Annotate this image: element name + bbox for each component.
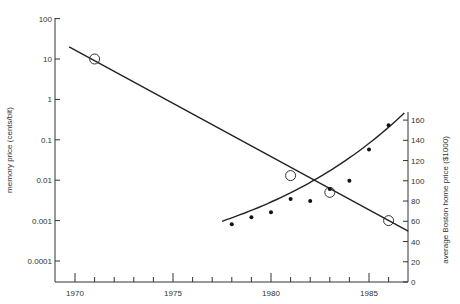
home-price-point (269, 210, 273, 214)
y-tick-label: 10 (43, 55, 52, 64)
y-tick-label: 0.001 (32, 217, 53, 226)
home-price-fit-curve (222, 113, 404, 221)
y-axis-title: memory price (cents/bit) (5, 107, 14, 193)
x-tick-label: 1980 (262, 289, 280, 298)
home-price-point (249, 215, 253, 219)
x-tick-label: 1975 (164, 289, 182, 298)
y2-tick-label: 0 (411, 278, 416, 287)
home-price-point (230, 222, 234, 226)
y-tick-label: 1 (48, 95, 53, 104)
axis-labels: 1001010.10.010.0010.00010204060801001201… (5, 15, 450, 298)
y2-tick-label: 140 (411, 136, 425, 145)
y-tick-label: 0.1 (41, 136, 53, 145)
y2-tick-label: 80 (411, 197, 420, 206)
chart: 1001010.10.010.0010.00010204060801001201… (0, 0, 460, 304)
y2-tick-label: 60 (411, 217, 420, 226)
x-tick-label: 1985 (360, 289, 378, 298)
home-price-point (367, 147, 371, 151)
memory-price-point (286, 171, 296, 181)
home-price-point (289, 197, 293, 201)
y-tick-label: 0.01 (36, 176, 52, 185)
y2-tick-label: 20 (411, 258, 420, 267)
fit-lines (69, 47, 408, 231)
memory-price-fit-line (69, 47, 408, 231)
home-price-point (308, 199, 312, 203)
y2-tick-label: 100 (411, 177, 425, 186)
x-tick-label: 1970 (66, 289, 84, 298)
axes (55, 18, 408, 282)
y-tick-label: 100 (39, 15, 53, 24)
home-price-point (387, 123, 391, 127)
y2-tick-label: 160 (411, 116, 425, 125)
y-tick-label: 0.0001 (28, 257, 53, 266)
home-price-point (347, 179, 351, 183)
home-price-point (328, 187, 332, 191)
y2-axis-title: average Boston home price ($1000) (441, 136, 450, 264)
y2-tick-label: 40 (411, 238, 420, 247)
y2-tick-label: 120 (411, 157, 425, 166)
